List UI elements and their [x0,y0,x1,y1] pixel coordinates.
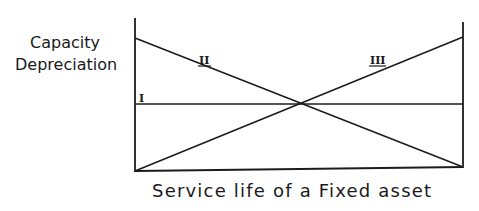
y-axis-label-depreciation: Depreciation [15,55,117,74]
label-ii-text: II [199,54,209,67]
label-iii-text: III [370,54,385,67]
y-axis-label-capacity: Capacity [30,33,100,52]
depreciation-diagram: I II III Capacity Depreciation Service l… [0,0,479,211]
label-i-text: I [139,92,144,105]
baseline-axis [135,167,463,171]
x-axis-label: Service life of a Fixed asset [152,180,432,201]
label-iii: III [369,54,386,67]
label-i: I [139,92,144,105]
diagram-canvas: I II III Capacity Depreciation Service l… [0,0,479,211]
label-ii: II [198,54,211,67]
